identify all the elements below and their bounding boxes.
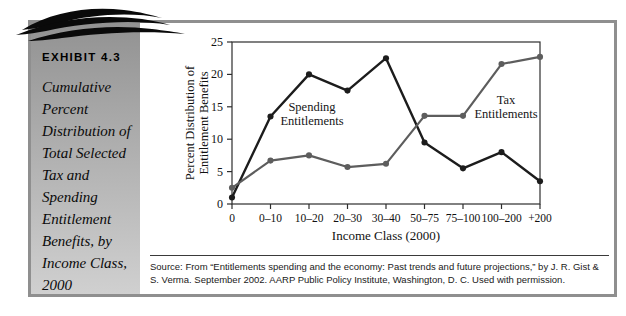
data-point	[229, 185, 235, 191]
series-annotation: TaxEntitlements	[474, 93, 537, 121]
data-point	[344, 164, 350, 170]
data-point	[460, 165, 466, 171]
source-note: Source: From “Entitlements spending and …	[150, 255, 609, 286]
x-tick-label: 10–20	[295, 212, 324, 224]
plot-area	[232, 42, 540, 204]
series-tax-entitlements	[229, 54, 543, 191]
svg-text:Tax: Tax	[497, 93, 516, 107]
y-tick-label: 20	[211, 67, 223, 81]
y-axis: 0510152025	[211, 35, 232, 211]
series-annotation: SpendingEntitlements	[280, 100, 343, 128]
x-tick-label: 0	[229, 212, 235, 224]
data-point	[306, 71, 312, 77]
series-spending-entitlements	[229, 55, 543, 200]
data-point	[344, 88, 350, 94]
data-point	[383, 161, 389, 167]
data-point	[267, 113, 273, 119]
exhibit-sidebar: EXHIBIT 4.3 Cumulative Percent Distribut…	[31, 23, 140, 294]
data-point	[498, 61, 504, 67]
chart-svg: 051015202500–1010–2020–3030–4050–7575–10…	[151, 26, 616, 256]
data-point	[537, 54, 543, 60]
data-point	[229, 194, 235, 200]
series-line-spending-entitlements	[232, 58, 540, 197]
x-tick-label: 75–100	[446, 212, 481, 224]
y-tick-label: 5	[217, 165, 223, 179]
source-line-1: Source: From “Entitlements spending and …	[150, 261, 609, 274]
data-point	[498, 149, 504, 155]
x-axis-title: Income Class (2000)	[332, 228, 440, 243]
series-line-tax-entitlements	[232, 57, 540, 188]
data-point	[421, 113, 427, 119]
y-tick-label: 0	[217, 197, 223, 211]
svg-text:Entitlements: Entitlements	[280, 114, 343, 128]
data-point	[267, 158, 273, 164]
x-tick-label: 0–10	[259, 212, 282, 224]
y-tick-label: 10	[211, 132, 223, 146]
data-point	[383, 55, 389, 61]
svg-text:Entitlements: Entitlements	[474, 107, 537, 121]
data-point	[306, 152, 312, 158]
data-point	[421, 139, 427, 145]
x-tick-label: 30–40	[372, 212, 401, 224]
exhibit-number-label: EXHIBIT 4.3	[42, 51, 140, 63]
data-point	[537, 178, 543, 184]
y-tick-label: 25	[211, 35, 223, 49]
svg-text:Entitlement Benefits: Entitlement Benefits	[197, 71, 211, 174]
exhibit-title: Cumulative Percent Distribution of Total…	[42, 76, 136, 296]
y-tick-label: 15	[211, 100, 223, 114]
x-tick-label: 100–200	[481, 212, 522, 224]
source-line-2: S. Verma. September 2002. AARP Public Po…	[150, 274, 609, 287]
data-point	[460, 113, 466, 119]
x-tick-label: 50–75	[410, 212, 439, 224]
svg-text:Percent Distribution of: Percent Distribution of	[183, 65, 197, 180]
x-tick-label: +200	[528, 212, 552, 224]
svg-text:Spending: Spending	[288, 100, 336, 114]
x-axis: 00–1010–2020–3030–4050–7575–100100–200+2…	[229, 204, 552, 224]
y-axis-title: Percent Distribution ofEntitlement Benef…	[183, 65, 211, 180]
exhibit-frame: EXHIBIT 4.3 Cumulative Percent Distribut…	[28, 20, 617, 297]
x-tick-label: 20–30	[333, 212, 362, 224]
